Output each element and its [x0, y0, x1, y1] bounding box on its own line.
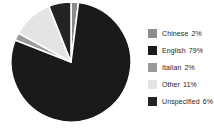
legend-value-chinese: 2%	[191, 30, 201, 37]
legend-swatch-chinese	[148, 29, 157, 38]
legend-item-unspecified[interactable]: Unspecified6%	[148, 93, 214, 110]
legend-item-chinese[interactable]: Chinese2%	[148, 25, 214, 42]
legend-label-text-italian: Italian	[162, 64, 181, 71]
chart-legend: Chinese2% English79% Italian2% Other11%	[148, 25, 214, 110]
legend-swatch-unspecified	[148, 97, 157, 106]
pie-slice-group	[11, 2, 131, 122]
legend-label-other: Other11%	[162, 80, 197, 89]
legend-label-text-other: Other	[162, 81, 180, 88]
legend-item-other[interactable]: Other11%	[148, 76, 214, 93]
pie-chart-svg	[0, 0, 145, 132]
legend-item-italian[interactable]: Italian2%	[148, 59, 214, 76]
pie-chart-plot-area	[0, 0, 145, 132]
legend-value-english: 79%	[189, 47, 203, 54]
legend-value-italian: 2%	[184, 64, 194, 71]
legend-label-text-english: English	[162, 47, 186, 54]
legend-swatch-italian	[148, 63, 157, 72]
legend-label-italian: Italian2%	[162, 63, 195, 72]
pie-chart-figure: Chinese2% English79% Italian2% Other11%	[0, 0, 214, 132]
legend-value-unspecified: 6%	[203, 98, 213, 105]
legend-item-english[interactable]: English79%	[148, 42, 214, 59]
legend-label-unspecified: Unspecified6%	[162, 97, 213, 106]
legend-label-chinese: Chinese2%	[162, 29, 202, 38]
legend-label-english: English79%	[162, 46, 203, 55]
legend-label-text-unspecified: Unspecified	[162, 98, 200, 105]
legend-value-other: 11%	[183, 81, 197, 88]
legend-swatch-english	[148, 46, 157, 55]
legend-swatch-other	[148, 80, 157, 89]
legend-label-text-chinese: Chinese	[162, 30, 188, 37]
